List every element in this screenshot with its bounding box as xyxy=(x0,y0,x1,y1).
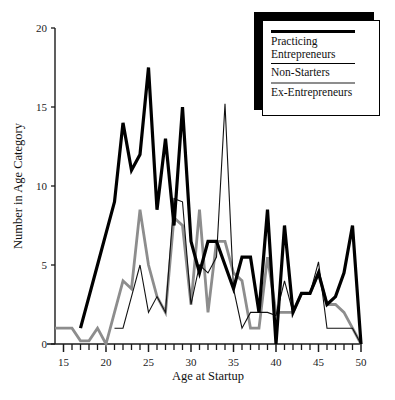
legend-swatch-ex-entrepreneurs xyxy=(271,82,355,84)
chart-legend: Practicing Entrepreneurs Non-Starters Ex… xyxy=(254,12,382,118)
y-tick-label: 5 xyxy=(42,259,48,271)
x-tick-label: 20 xyxy=(101,356,113,368)
x-tick-label: 45 xyxy=(313,356,325,368)
y-axis-tick-labels: 05101520 xyxy=(36,22,48,350)
y-tick-label: 10 xyxy=(36,180,48,192)
x-tick-label: 35 xyxy=(228,356,240,368)
legend-label-non-starters: Non-Starters xyxy=(271,66,372,79)
legend-entry-non-starters: Non-Starters xyxy=(271,63,372,79)
x-axis-ticks xyxy=(64,344,362,352)
legend-swatch-non-starters xyxy=(271,63,355,64)
x-tick-label: 40 xyxy=(271,356,283,368)
legend-entry-ex-entrepreneurs: Ex-Entrepreneurs xyxy=(271,82,372,99)
x-tick-label: 30 xyxy=(186,356,198,368)
x-tick-label: 50 xyxy=(356,356,368,368)
series-line-ex-entrepreneurs xyxy=(55,210,361,344)
y-tick-label: 20 xyxy=(36,22,48,34)
x-tick-label: 25 xyxy=(143,356,155,368)
legend-box: Practicing Entrepreneurs Non-Starters Ex… xyxy=(262,20,380,116)
y-axis-title: Number in Age Category xyxy=(11,122,25,249)
x-tick-label: 15 xyxy=(58,356,70,368)
legend-label-practicing-entrepreneurs: Practicing Entrepreneurs xyxy=(271,35,372,60)
x-axis-tick-labels: 1520253035404550 xyxy=(58,356,367,368)
x-axis-title: Age at Startup xyxy=(172,369,244,383)
chart-figure: 05101520 1520253035404550 Age at Startup… xyxy=(0,0,395,400)
y-tick-label: 0 xyxy=(42,338,48,350)
legend-swatch-practicing-entrepreneurs xyxy=(271,30,355,33)
legend-label-ex-entrepreneurs: Ex-Entrepreneurs xyxy=(271,86,372,99)
y-tick-label: 15 xyxy=(36,101,48,113)
legend-entry-practicing-entrepreneurs: Practicing Entrepreneurs xyxy=(271,30,372,60)
